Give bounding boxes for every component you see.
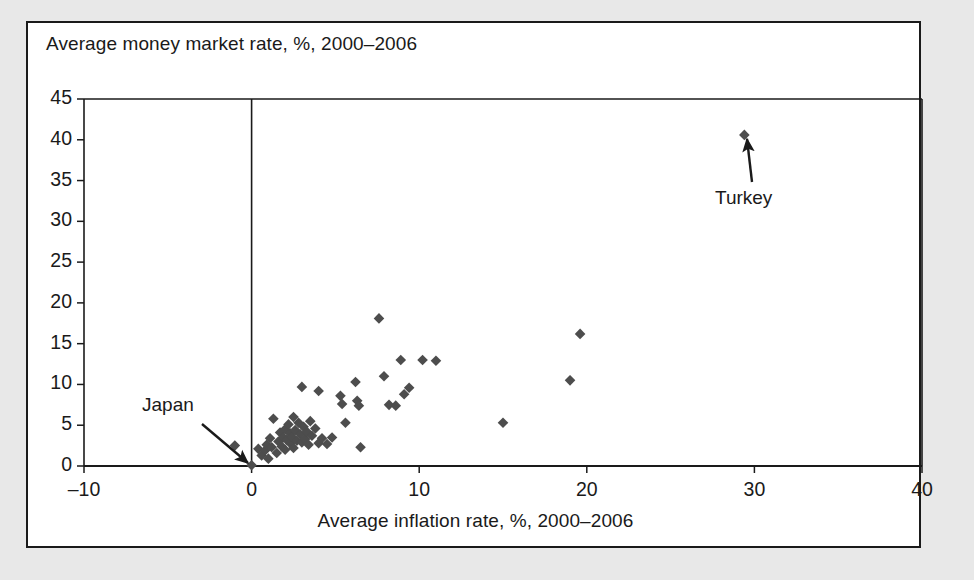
scatter-plot-svg <box>28 23 923 550</box>
y-tick-label: 15 <box>28 331 72 354</box>
data-point <box>575 329 586 340</box>
x-tick-label: 40 <box>887 478 957 501</box>
x-axis-title: Average inflation rate, %, 2000–2006 <box>28 510 923 532</box>
annotation-label-turkey: Turkey <box>715 187 772 209</box>
x-tick-label: 0 <box>217 478 287 501</box>
data-point <box>350 377 361 388</box>
y-tick-label: 40 <box>28 127 72 150</box>
annotation-arrow-turkey <box>747 139 752 182</box>
x-tick-label: 30 <box>719 478 789 501</box>
data-point <box>390 400 401 411</box>
y-tick-label: 25 <box>28 249 72 272</box>
data-point <box>297 382 308 393</box>
data-point <box>498 417 509 428</box>
data-points-group <box>230 130 750 471</box>
axes-group <box>84 99 922 466</box>
data-point <box>379 371 390 382</box>
y-tick-label: 5 <box>28 412 72 435</box>
chart-plot-area: Average money market rate, %, 2000–2006 … <box>28 23 923 550</box>
x-tick-label: 10 <box>384 478 454 501</box>
data-point <box>374 313 385 324</box>
data-point <box>739 130 750 141</box>
data-point <box>268 413 279 424</box>
figure-root: Average money market rate, %, 2000–2006 … <box>0 0 974 580</box>
data-point <box>395 355 406 366</box>
data-point <box>355 442 366 453</box>
y-tick-label: 20 <box>28 290 72 313</box>
data-point <box>565 375 576 386</box>
x-tick-label: 20 <box>552 478 622 501</box>
annotation-arrow-japan <box>202 424 248 463</box>
data-point <box>337 399 348 410</box>
y-tick-label: 45 <box>28 86 72 109</box>
y-tick-label: 10 <box>28 371 72 394</box>
data-point <box>335 391 346 402</box>
data-point <box>431 355 442 366</box>
y-tick-label: 30 <box>28 208 72 231</box>
chart-panel: Average money market rate, %, 2000–2006 … <box>26 21 921 548</box>
data-point <box>417 355 428 366</box>
data-point <box>340 417 351 428</box>
data-point <box>313 386 324 397</box>
y-tick-label: 35 <box>28 168 72 191</box>
y-tick-label: 0 <box>28 453 72 476</box>
x-tick-label: –10 <box>49 478 119 501</box>
annotation-arrows-group <box>202 139 752 463</box>
axis-ticks-group <box>77 99 922 473</box>
annotation-label-japan: Japan <box>142 394 194 416</box>
